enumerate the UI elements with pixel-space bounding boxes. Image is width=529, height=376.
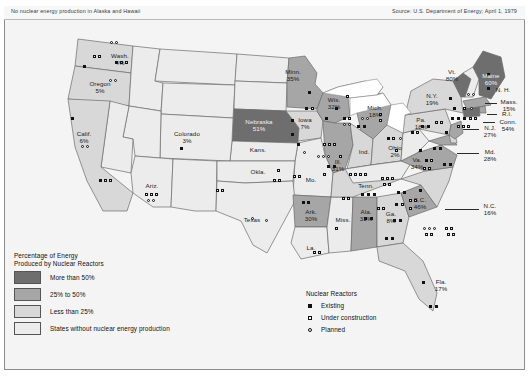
reactor-legend-label-under-construction: Under construction bbox=[321, 314, 376, 321]
state-label-ct: Conn.54% bbox=[495, 119, 521, 133]
nuclear-energy-map-page: No nuclear energy production in Alaska a… bbox=[0, 0, 529, 376]
legend-label-more-than-50: More than 50% bbox=[50, 274, 95, 281]
legend-title: Percentage of Energy Produced by Nuclear… bbox=[14, 252, 250, 267]
state-label-wa: Wash. 4% bbox=[103, 53, 137, 67]
reactor-legend-title: Nuclear Reactors bbox=[306, 290, 376, 297]
leader-line-nc bbox=[445, 209, 479, 210]
percentage-legend: Percentage of Energy Produced by Nuclear… bbox=[14, 252, 250, 335]
source-credit: Source: U.S. Department of Energy; April… bbox=[392, 8, 517, 14]
state-label-fl: Fla.17% bbox=[429, 279, 453, 293]
state-label-ne: Nebraska51% bbox=[235, 119, 283, 133]
state-shape-la bbox=[291, 227, 329, 259]
reactor-legend-row-planned: Planned bbox=[306, 326, 376, 333]
legend-label-less-than-25: Less than 25% bbox=[50, 308, 94, 315]
legend-swatch-25-to-50 bbox=[14, 288, 41, 301]
open-square-icon bbox=[306, 316, 314, 320]
legend-row-none: States without nuclear energy production bbox=[14, 322, 250, 335]
legend-label-none: States without nuclear energy production bbox=[50, 325, 170, 332]
state-label-la: La. bbox=[303, 245, 319, 252]
state-label-tx: Texas bbox=[237, 217, 267, 224]
legend-row-25-to-50: 25% to 50% bbox=[14, 288, 250, 301]
reactor-legend-row-under-construction: Under construction bbox=[306, 314, 376, 321]
legend-title-line2: Produced by Nuclear Reactors bbox=[14, 260, 104, 267]
leader-line-md bbox=[457, 153, 479, 154]
state-shape-wy bbox=[161, 83, 235, 118]
filled-square-icon bbox=[306, 304, 314, 308]
state-label-pa: Pa.18% bbox=[411, 117, 431, 131]
state-label-mi: Mich.18% bbox=[361, 105, 389, 119]
state-label-me: Maine60% bbox=[477, 73, 505, 87]
state-label-sc: S.C.46% bbox=[409, 197, 431, 211]
state-label-nc: N.C.16% bbox=[479, 203, 501, 217]
legend-row-less-than-25: Less than 25% bbox=[14, 305, 250, 318]
state-pct-wa: 4% bbox=[103, 60, 137, 67]
state-label-ia: Iowa7% bbox=[291, 117, 319, 131]
leader-line-ri bbox=[487, 114, 497, 115]
legend-row-more-than-50: More than 50% bbox=[14, 271, 250, 284]
state-label-mn: Minn.35% bbox=[277, 69, 309, 83]
state-label-ar: Ark.30% bbox=[299, 209, 323, 223]
state-shape-mt bbox=[155, 49, 237, 85]
legend-swatch-less-than-25 bbox=[14, 305, 41, 318]
reactor-legend-label-planned: Planned bbox=[321, 326, 345, 333]
state-label-ca: Calif.6% bbox=[69, 131, 99, 145]
state-label-mo: Mo. bbox=[301, 177, 321, 184]
state-shape-nm bbox=[171, 159, 217, 211]
state-label-va: Va.34% bbox=[407, 157, 427, 171]
legend-title-line1: Percentage of Energy bbox=[14, 252, 78, 259]
state-shape-ri bbox=[479, 106, 486, 113]
reactor-legend: Nuclear Reactors Existing Under construc… bbox=[306, 290, 376, 338]
state-label-ny: N.Y.19% bbox=[421, 93, 443, 107]
state-label-nh: N. H. bbox=[491, 87, 515, 94]
alaska-hawaii-note: No nuclear energy production in Alaska a… bbox=[11, 8, 140, 14]
reactor-legend-row-existing: Existing bbox=[306, 302, 376, 309]
state-shape-nj bbox=[449, 121, 463, 139]
state-label-ga: Ga.8% bbox=[381, 211, 401, 225]
state-label-al: Ala.33% bbox=[355, 209, 377, 223]
legend-label-25-to-50: 25% to 50% bbox=[50, 291, 85, 298]
leader-line-ct bbox=[483, 122, 495, 123]
state-label-ms: Miss. bbox=[331, 217, 355, 224]
legend-swatch-more-than-50 bbox=[14, 271, 41, 284]
state-label-vt: Vt.80% bbox=[443, 69, 461, 83]
state-label-ri: R.I. bbox=[497, 111, 517, 118]
state-label-ok: Okla. bbox=[245, 169, 271, 176]
state-shape-ms bbox=[327, 197, 353, 253]
state-label-ks: Kans. bbox=[243, 147, 273, 154]
state-label-co: Colorado3% bbox=[165, 131, 209, 145]
state-label-md: Md.28% bbox=[479, 149, 501, 163]
state-label-oh: Ohio2% bbox=[383, 145, 407, 159]
open-circle-icon bbox=[306, 328, 314, 332]
state-label-in: Ind. bbox=[353, 149, 375, 156]
state-label-wi: Wis.32% bbox=[321, 97, 347, 111]
state-label-il: Ill.31% bbox=[327, 159, 349, 173]
state-shape-sd bbox=[234, 81, 287, 111]
leader-line-nj bbox=[463, 129, 479, 130]
state-label-or: Oregon5% bbox=[81, 81, 119, 95]
leader-line-ma bbox=[485, 103, 497, 104]
legend-swatch-none bbox=[14, 322, 41, 335]
state-shape-al bbox=[351, 197, 377, 251]
state-label-az: Ariz. bbox=[137, 183, 167, 190]
state-label-tn: Tenn. bbox=[353, 183, 379, 190]
reactor-legend-label-existing: Existing bbox=[321, 302, 344, 309]
state-shape-fl bbox=[377, 243, 437, 311]
